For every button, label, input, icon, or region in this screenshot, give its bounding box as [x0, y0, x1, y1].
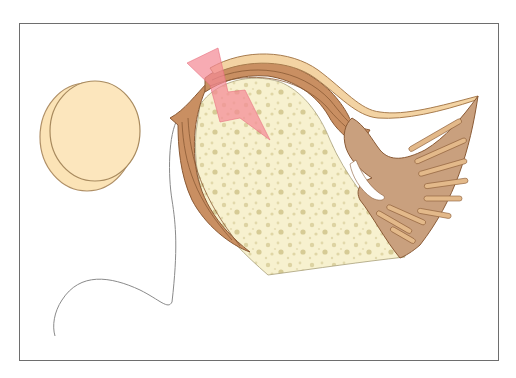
- anatomy-illustration: [0, 0, 516, 378]
- patella-disc: [40, 81, 140, 191]
